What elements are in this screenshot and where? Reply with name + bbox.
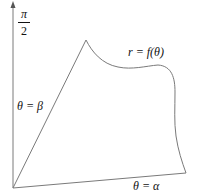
ray-alpha: [13, 173, 186, 188]
polar-region-diagram: [0, 0, 208, 195]
axis-label-pi-over-2: π 2: [17, 8, 31, 37]
axis-label-denominator: 2: [17, 23, 31, 37]
ray-beta: [13, 40, 86, 188]
label-theta-beta: θ = β: [17, 100, 43, 112]
polar-curve: [86, 40, 186, 173]
axis-arrow-icon: [11, 1, 16, 8]
label-theta-alpha: θ = α: [133, 180, 159, 192]
axis-label-numerator: π: [17, 8, 31, 22]
label-curve: r = f(θ): [128, 46, 164, 58]
